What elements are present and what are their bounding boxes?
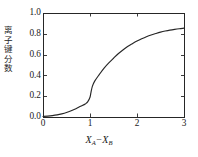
x-axis-sub-a: A xyxy=(92,139,96,146)
chart-figure: 离 子 键 分 数 0.00.20.40.60.81.0 0123 XA−XB xyxy=(0,0,198,157)
axis-tick-marks xyxy=(44,14,185,118)
x-axis-title: XA−XB xyxy=(0,134,198,147)
x-axis-var-a: X xyxy=(86,134,92,145)
x-axis-sub-b: B xyxy=(108,139,112,146)
data-curve xyxy=(43,28,184,116)
plot-frame xyxy=(44,14,185,118)
plot-border xyxy=(44,14,185,118)
